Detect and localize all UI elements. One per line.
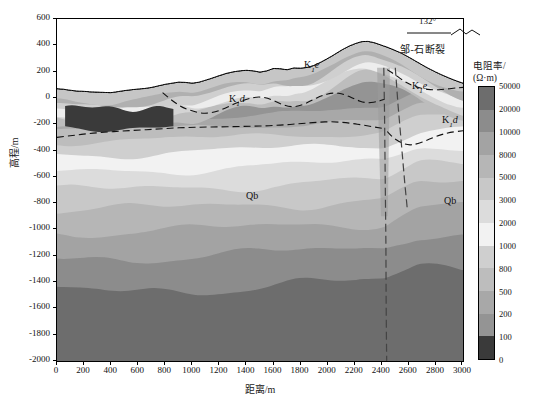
colorbar-tick-10000: 10000 <box>499 127 520 137</box>
colorbar-title-line1: 电阻率/ <box>473 61 506 71</box>
y-tick--1200: -1200 <box>8 249 50 259</box>
x-tick-3000: 3000 <box>442 365 482 375</box>
formation-label-qb-right: Qb <box>444 195 456 206</box>
colorbar-tick-0: 0 <box>499 355 503 365</box>
x-tick-mark <box>300 362 301 365</box>
colorbar-segment-5 <box>479 200 494 223</box>
y-tick-600: 600 <box>8 12 50 22</box>
colorbar-tick-2000: 2000 <box>499 218 516 228</box>
plot-area-wrapper: K1eK1dK1eK1dQbQb <box>56 18 464 362</box>
colorbar-tick-3000: 3000 <box>499 195 516 205</box>
x-tick-mark <box>381 362 382 365</box>
strike-symbol-icon <box>406 27 481 41</box>
colorbar-tick-200: 200 <box>499 309 512 319</box>
x-tick-mark <box>354 362 355 365</box>
colorbar-segment-4 <box>479 178 494 201</box>
figure-root: 6004002000-200-400-600-800-1000-1200-140… <box>0 0 533 401</box>
cross-section-plot: K1eK1dK1eK1dQbQb <box>56 18 464 362</box>
colorbar-segment-7 <box>479 246 494 269</box>
colorbar-tick-100: 100 <box>499 332 512 342</box>
colorbar-segment-10 <box>479 314 494 337</box>
y-tick--600: -600 <box>8 170 50 180</box>
x-tick-mark <box>218 362 219 365</box>
colorbar-tick-5000: 5000 <box>499 172 516 182</box>
colorbar-tick-50000: 50000 <box>499 81 520 91</box>
y-tick--1800: -1800 <box>8 328 50 338</box>
colorbar-segment-3 <box>479 155 494 178</box>
colorbar-tick-1000: 1000 <box>499 241 516 251</box>
colorbar-segment-11 <box>479 336 494 359</box>
x-tick-mark <box>435 362 436 365</box>
x-tick-mark <box>56 362 57 365</box>
y-tick--800: -800 <box>8 196 50 206</box>
colorbar-tick-800: 800 <box>499 264 512 274</box>
resistivity-section-svg: K1eK1dK1eK1dQbQb <box>57 19 463 361</box>
x-tick-mark <box>327 362 328 365</box>
colorbar: 电阻率/ (Ω·m) 50000200001000080005000300020… <box>473 60 533 360</box>
y-tick-400: 400 <box>8 38 50 48</box>
x-axis-title: 距离/m <box>0 381 520 396</box>
y-tick-0: 0 <box>8 91 50 101</box>
colorbar-segment-0 <box>479 87 494 110</box>
colorbar-segment-2 <box>479 132 494 155</box>
colorbar-segment-1 <box>479 110 494 133</box>
y-axis-title: 高程/m <box>6 137 21 168</box>
y-tick--1600: -1600 <box>8 301 50 311</box>
x-tick-mark <box>164 362 165 365</box>
formation-label-qb-left: Qb <box>246 190 258 201</box>
colorbar-tick-8000: 8000 <box>499 150 516 160</box>
y-tick--2000: -2000 <box>8 354 50 364</box>
x-tick-mark <box>191 362 192 365</box>
colorbar-segment-6 <box>479 223 494 246</box>
x-tick-mark <box>137 362 138 365</box>
colorbar-segment-9 <box>479 291 494 314</box>
x-tick-mark <box>273 362 274 365</box>
x-tick-mark <box>408 362 409 365</box>
fault-name-label: 邹-石断裂 <box>400 41 446 56</box>
colorbar-gradient <box>478 86 495 360</box>
strike-angle-label: 132° <box>419 16 436 26</box>
x-tick-mark <box>245 362 246 365</box>
colorbar-tick-500: 500 <box>499 287 512 297</box>
colorbar-segment-8 <box>479 268 494 291</box>
y-tick--200: -200 <box>8 117 50 127</box>
x-tick-mark <box>110 362 111 365</box>
colorbar-title-line2: (Ω·m) <box>473 73 497 83</box>
y-tick-200: 200 <box>8 65 50 75</box>
colorbar-tick-20000: 20000 <box>499 104 520 114</box>
x-tick-mark <box>461 362 462 365</box>
x-tick-mark <box>83 362 84 365</box>
y-tick--1000: -1000 <box>8 222 50 232</box>
y-tick--1400: -1400 <box>8 275 50 285</box>
